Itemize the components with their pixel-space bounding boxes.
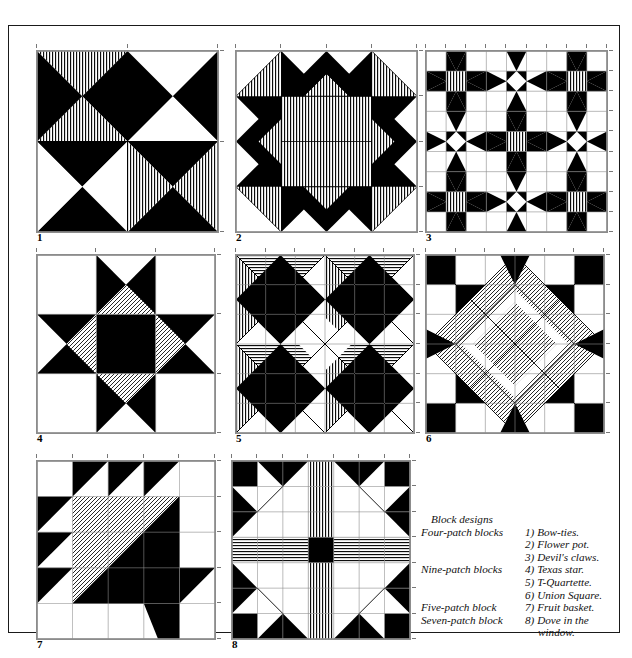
- ruler-tick: [416, 254, 420, 255]
- ruler-tick: [412, 587, 416, 588]
- ruler-tick: [606, 284, 610, 285]
- quilt-block-4[interactable]: 4: [36, 254, 216, 434]
- ruler-tick: [412, 511, 416, 512]
- ruler-tick: [603, 248, 604, 252]
- ruler-tick: [609, 50, 613, 51]
- block-number-label: 8: [232, 639, 238, 650]
- ruler-tick: [217, 44, 218, 48]
- quilt-block-diagram-8: [231, 460, 411, 640]
- ruler-tick: [217, 496, 221, 497]
- block-number-label: 5: [236, 433, 242, 444]
- ruler-tick: [419, 141, 423, 142]
- quilt-block-1[interactable]: 1: [36, 50, 219, 233]
- caption-block-name: window.: [538, 626, 575, 638]
- caption-block-name: Bow-ties.: [537, 526, 579, 538]
- caption-block-entry: 1) Bow-ties.: [525, 526, 619, 539]
- ruler-tick: [609, 211, 613, 212]
- block-number-label: 6: [426, 433, 432, 444]
- ruler-tick: [214, 248, 215, 252]
- ruler-tick: [217, 313, 221, 314]
- ruler-tick: [419, 231, 423, 232]
- ruler-tick: [384, 454, 385, 458]
- caption-block-entry: 7) Fruit basket.: [525, 601, 619, 614]
- ruler-tick: [413, 248, 414, 252]
- ruler-tick: [416, 284, 420, 285]
- ruler-tick: [586, 44, 587, 48]
- quilt-block-7[interactable]: 7: [36, 460, 216, 640]
- ruler-tick: [416, 44, 417, 48]
- ruler-tick: [606, 44, 607, 48]
- caption-legend: Block designs Four-patch blocks1) Bow-ti…: [421, 513, 619, 639]
- ruler-tick: [324, 248, 325, 252]
- quilt-block-diagram-2: [235, 50, 418, 233]
- ruler-tick: [217, 460, 221, 461]
- caption-block-entry: 8) Dove in the: [525, 614, 619, 627]
- block-number-label: 3: [426, 232, 432, 243]
- quilt-block-8[interactable]: 8: [231, 460, 411, 640]
- ruler-tick: [606, 432, 610, 433]
- caption-rows: Four-patch blocks1) Bow-ties.2) Flower p…: [421, 526, 619, 639]
- ruler-tick: [217, 531, 221, 532]
- ruler-tick: [358, 454, 359, 458]
- caption-block-entry: 4) Texas star.: [525, 563, 619, 576]
- ruler-tick: [217, 567, 221, 568]
- quilt-block-3[interactable]: 3: [425, 50, 608, 233]
- ruler-tick: [544, 248, 545, 252]
- ruler-tick: [609, 70, 613, 71]
- ruler-tick: [72, 454, 73, 458]
- caption-row: Five-patch block7) Fruit basket.: [421, 601, 619, 614]
- block-number-label: 4: [37, 433, 43, 444]
- ruler-tick: [282, 454, 283, 458]
- caption-row: 6) Union Square.: [421, 589, 619, 602]
- caption-block-entry: 6) Union Square.: [525, 589, 619, 602]
- ruler-tick: [606, 373, 610, 374]
- quilt-block-6[interactable]: 6: [425, 254, 605, 434]
- plate-page: 12345678 Block designs Four-patch blocks…: [0, 0, 632, 658]
- caption-row: 2) Flower pot.: [421, 538, 619, 551]
- caption-row: 5) T-Quartette.: [421, 576, 619, 589]
- ruler-tick: [107, 454, 108, 458]
- ruler-tick: [326, 44, 327, 48]
- caption-block-number: 2): [525, 538, 534, 550]
- ruler-tick: [606, 313, 610, 314]
- ruler-tick: [220, 50, 224, 51]
- ruler-tick: [220, 231, 224, 232]
- ruler-tick: [36, 248, 37, 252]
- ruler-tick: [217, 373, 221, 374]
- ruler-tick: [412, 638, 416, 639]
- ruler-tick: [231, 454, 232, 458]
- ruler-tick: [412, 536, 416, 537]
- ruler-tick: [609, 130, 613, 131]
- ruler-tick: [333, 454, 334, 458]
- quilt-block-diagram-3: [425, 50, 608, 233]
- ruler-tick: [143, 454, 144, 458]
- caption-group-label: Nine-patch blocks: [421, 563, 525, 576]
- ruler-tick: [514, 248, 515, 252]
- ruler-tick: [455, 248, 456, 252]
- ruler-tick: [214, 454, 215, 458]
- ruler-tick: [546, 44, 547, 48]
- ruler-tick: [412, 562, 416, 563]
- caption-block-name: Devil's claws.: [537, 551, 599, 563]
- ruler-tick: [217, 432, 221, 433]
- ruler-tick: [606, 402, 610, 403]
- caption-block-number: 6): [525, 589, 534, 601]
- caption-group-label: Four-patch blocks: [421, 526, 525, 539]
- quilt-block-2[interactable]: 2: [235, 50, 418, 233]
- ruler-tick: [294, 248, 295, 252]
- caption-group-label: Seven-patch block: [421, 614, 525, 627]
- ruler-tick: [609, 191, 613, 192]
- ruler-tick: [265, 248, 266, 252]
- ruler-tick: [36, 454, 37, 458]
- ruler-tick: [416, 373, 420, 374]
- ruler-tick: [256, 454, 257, 458]
- ruler-tick: [485, 44, 486, 48]
- block-number-label: 7: [37, 639, 43, 650]
- caption-block-number: 4): [525, 563, 534, 575]
- ruler-tick: [419, 186, 423, 187]
- ruler-tick: [419, 95, 423, 96]
- quilt-block-5[interactable]: 5: [235, 254, 415, 434]
- caption-block-name: T-Quartette.: [537, 576, 592, 588]
- caption-block-entry: 3) Devil's claws.: [525, 551, 619, 564]
- ruler-tick: [606, 343, 610, 344]
